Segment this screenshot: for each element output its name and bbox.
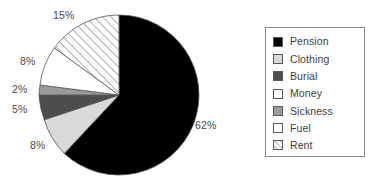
legend-item-rent[interactable]: Rent: [273, 137, 364, 154]
pie-label-sickness: 2%: [12, 84, 28, 95]
solid-black-swatch: [273, 37, 283, 47]
legend-item-pension[interactable]: Pension: [273, 33, 364, 50]
legend-label-rent: Rent: [290, 140, 313, 151]
legend-label-clothing: Clothing: [290, 54, 329, 65]
pie-label-burial: 5%: [12, 104, 28, 115]
legend-item-money[interactable]: Money: [273, 85, 364, 102]
pie-label-clothing: 8%: [30, 140, 46, 151]
pie-label-rent: 15%: [53, 10, 75, 21]
pie-label-pension: 62%: [195, 120, 217, 131]
solid-white-swatch: [273, 123, 283, 133]
legend-label-pension: Pension: [290, 36, 329, 47]
legend-item-burial[interactable]: Burial: [273, 68, 364, 85]
pie-chart-figure: 62% 8% 5% 2% 8% 15% Pension Clothing Bur…: [0, 0, 379, 185]
chart-legend: Pension Clothing Burial Money Sickness F…: [265, 27, 365, 157]
legend-item-fuel[interactable]: Fuel: [273, 119, 364, 136]
solid-medium-gray-swatch: [273, 106, 283, 116]
legend-label-fuel: Fuel: [290, 123, 311, 134]
legend-label-burial: Burial: [290, 71, 317, 82]
diagonal-hatch-swatch: [273, 140, 283, 150]
solid-white-swatch: [273, 89, 283, 99]
legend-item-clothing[interactable]: Clothing: [273, 50, 364, 67]
pie-label-money: 8%: [20, 56, 36, 67]
legend-label-sickness: Sickness: [290, 106, 333, 117]
legend-item-sickness[interactable]: Sickness: [273, 102, 364, 119]
legend-label-money: Money: [290, 88, 322, 99]
solid-dark-gray-swatch: [273, 71, 283, 81]
solid-light-gray-swatch: [273, 54, 283, 64]
